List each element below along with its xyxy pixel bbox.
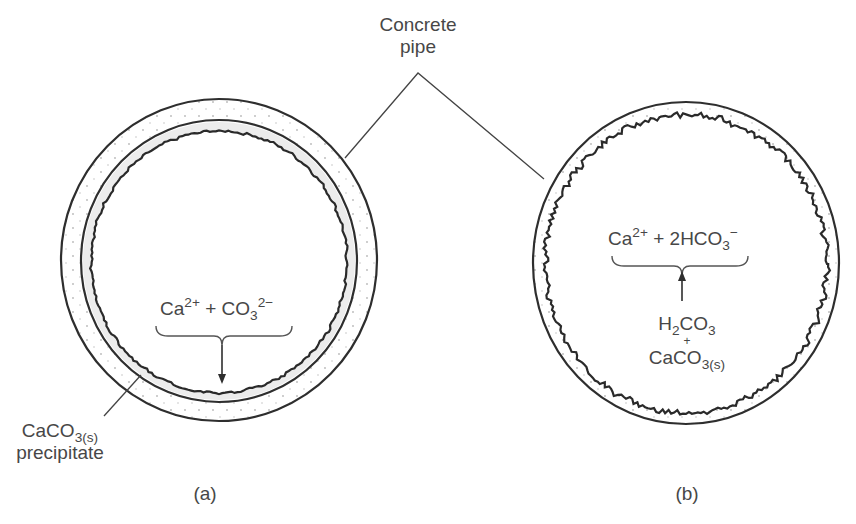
concrete-pipe-label-line2: pipe <box>370 36 466 58</box>
carbonic-acid: H2CO3 <box>622 314 752 334</box>
reaction-b-reactants: H2CO3 + CaCO3(s) <box>622 314 752 368</box>
pipe-a-concrete-wall <box>61 99 377 421</box>
carbonic-acid-h: H <box>658 313 672 334</box>
bicarbonate-ion: 2HCO <box>670 228 723 249</box>
diagram-canvas <box>0 0 856 524</box>
bicarbonate-subscript: 3 <box>722 238 730 253</box>
reaction-b-products: Ca2+ + 2HCO3− <box>608 229 738 249</box>
caption-b: (b) <box>662 484 712 504</box>
plus-sign: + <box>622 334 752 348</box>
plus-sign: + <box>653 228 664 249</box>
pipe-a <box>61 99 377 421</box>
pipe-a-inner-edge <box>81 120 357 402</box>
arrow-down-icon <box>218 345 226 384</box>
carbonate-charge: 2− <box>258 295 274 310</box>
carbonic-acid-h-sub: 2 <box>672 323 680 338</box>
calcium-carbonate-solid: CaCO3(s) <box>622 348 752 368</box>
carbonic-acid-co: CO <box>680 313 709 334</box>
carbonate-ion: CO <box>222 298 251 319</box>
calcium-ion: Ca <box>160 298 184 319</box>
calcium-carbonate-main: CaCO <box>649 347 702 368</box>
concrete-pipe-label-line1: Concrete <box>370 14 466 36</box>
carbonic-acid-co-sub: 3 <box>708 323 716 338</box>
precipitate-label: CaCO3(s) precipitate <box>4 420 116 464</box>
pipe-a-precipitate-surface <box>90 130 347 394</box>
calcium-charge: 2+ <box>632 225 648 240</box>
plus-sign: + <box>205 298 216 319</box>
reaction-b-brace <box>612 256 748 275</box>
precipitate-formula-main: CaCO <box>22 420 75 441</box>
calcium-charge: 2+ <box>184 295 200 310</box>
calcium-ion: Ca <box>608 228 632 249</box>
calcium-carbonate-sub: 3(s) <box>702 357 726 372</box>
caption-a: (a) <box>180 484 230 504</box>
bicarbonate-charge: − <box>730 225 738 240</box>
precipitate-formula: CaCO3(s) <box>4 420 116 442</box>
pipe-b <box>533 102 839 424</box>
pipe-a-precipitate-layer <box>83 122 355 400</box>
carbonate-subscript: 3 <box>250 308 258 323</box>
concrete-pipe-label: Concrete pipe <box>370 14 466 58</box>
reaction-a-ions: Ca2+ + CO32− <box>160 299 273 319</box>
precipitate-word: precipitate <box>4 442 116 464</box>
pipe-b-concrete-wall <box>533 102 839 424</box>
arrow-up-icon <box>678 271 686 301</box>
reaction-a-brace <box>156 326 292 345</box>
concrete-pipe-leader-lines <box>345 73 544 179</box>
